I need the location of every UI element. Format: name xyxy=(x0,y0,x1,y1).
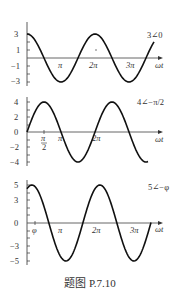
x-axis-label: ωt xyxy=(155,60,164,70)
xtick: φ xyxy=(32,225,37,235)
ytick: 2 xyxy=(14,112,18,122)
ytick: 3 xyxy=(14,29,18,39)
xtick: 3π xyxy=(125,60,135,70)
ytick: 3 xyxy=(14,195,18,205)
ytick: −2 xyxy=(10,142,19,152)
ytick: −4 xyxy=(10,157,20,167)
xtick: 2π xyxy=(89,60,98,70)
chart-4-angle-minus-half-pi: 4 2 0 −2 −4 π 2 π 2π ωt 4∠−π/2 xyxy=(10,97,164,167)
waveform-figure: 3 1 −1 −3 π 2π 3π ωt 3∠0 4 2 0 −2 −4 π 2… xyxy=(0,0,180,289)
ytick: −1 xyxy=(11,61,20,71)
chart-5-angle-minus-phi: 5 3 0 −3 −5 φ π 2π 3π ωt 5∠−φ xyxy=(10,180,169,266)
ytick: −3 xyxy=(10,241,19,251)
ytick: 4 xyxy=(14,97,19,107)
ytick: 1 xyxy=(16,45,20,55)
xtick: 2π xyxy=(92,225,101,235)
xtick-half-pi-den: 2 xyxy=(42,142,46,152)
x-axis-label: ωt xyxy=(155,224,164,234)
ytick: 0 xyxy=(14,218,18,228)
xtick: 3π xyxy=(129,225,139,235)
ytick: 5 xyxy=(14,180,18,190)
xtick: π xyxy=(58,60,63,70)
ytick: −5 xyxy=(10,256,19,266)
ytick: −3 xyxy=(11,76,20,86)
figure-caption: 题图 P.7.10 xyxy=(0,274,180,289)
phasor-label: 3∠0 xyxy=(147,30,163,40)
x-axis-label: ωt xyxy=(155,134,164,144)
chart-3-angle-0: 3 1 −1 −3 π 2π 3π ωt 3∠0 xyxy=(11,22,164,86)
xtick: π xyxy=(58,225,63,235)
ytick: 0 xyxy=(14,127,18,137)
phasor-label: 5∠−φ xyxy=(148,182,169,192)
phasor-label: 4∠−π/2 xyxy=(137,97,164,107)
